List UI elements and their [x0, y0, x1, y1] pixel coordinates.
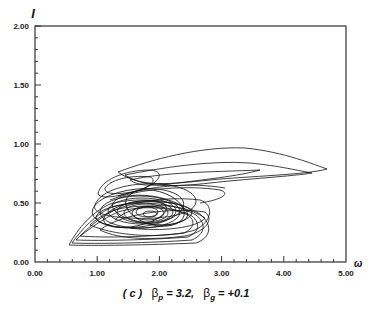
- figure-caption: ( c ) βp = 3.2, βg = +0.1: [0, 286, 372, 302]
- x-tick-label: 5.00: [338, 269, 354, 278]
- trajectory: [69, 148, 327, 246]
- x-tick-label: 0.00: [27, 269, 43, 278]
- x-tick-label: 1.00: [89, 269, 105, 278]
- panel-label: ( c ): [123, 287, 143, 299]
- beta-g-value: = +0.1: [215, 287, 249, 299]
- y-tick-label: 0.00: [13, 258, 29, 267]
- x-tick-label: 3.00: [214, 269, 230, 278]
- phase-plot: 2.00 1.50 1.00 0.50 0.00 0.00 1.00 2.00 …: [0, 0, 372, 316]
- y-tick-label: 1.50: [13, 81, 29, 90]
- y-tick-label: 1.00: [13, 140, 29, 149]
- y-axis-ticks: [35, 26, 41, 250]
- x-axis-ticks: [47, 256, 333, 262]
- y-tick-label: 2.00: [13, 22, 29, 31]
- beta-p-value: = 3.2,: [163, 287, 194, 299]
- y-axis-title: I: [31, 6, 35, 21]
- x-axis-title: ω: [354, 258, 363, 269]
- plot-frame: [35, 26, 346, 262]
- y-tick-label: 0.50: [13, 199, 29, 208]
- x-tick-label: 4.00: [276, 269, 292, 278]
- x-tick-label: 2.00: [152, 269, 168, 278]
